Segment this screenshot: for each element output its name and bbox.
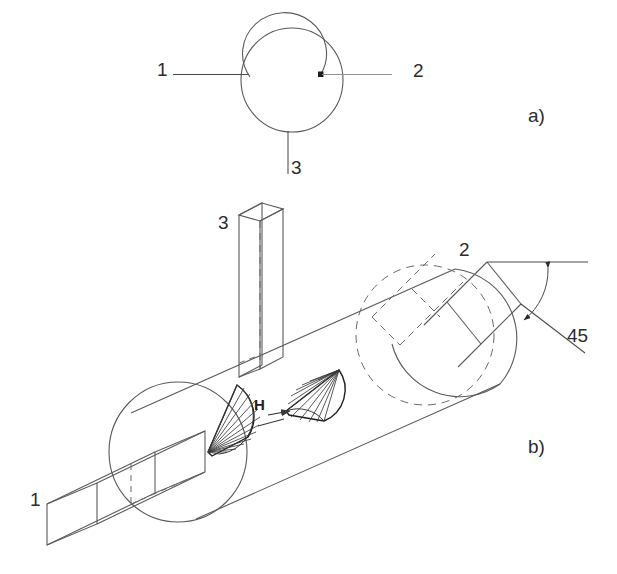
view-a-callout-3: 3: [291, 157, 302, 179]
tool-plate-hidden-bottom: [239, 355, 260, 363]
technical-figure: 1 2 3 a) 3 2 1 H 45 b): [0, 0, 617, 574]
tool-plate-side-face: [260, 209, 283, 369]
angle-45-label: 45: [567, 325, 588, 347]
tool-plate-front-face: [239, 203, 262, 377]
tool-plate-bottom-edge: [239, 369, 260, 377]
view-b-callout-3: 3: [218, 212, 229, 234]
view-a-callout-1: 1: [157, 59, 168, 81]
view-b-panel-label: b): [528, 436, 545, 458]
bar2-edge-bottom: [458, 304, 521, 367]
bar2-shoulder-edge: [447, 302, 481, 344]
bar1-top-near-edge: [47, 452, 155, 504]
dimension-h-leader: [258, 419, 284, 426]
bar1-top-far-edge: [97, 431, 205, 483]
cone-feature-left: [208, 385, 260, 456]
cone-right-radial-lines: [286, 370, 339, 422]
cylinder-top-edge: [131, 269, 455, 413]
cone-feature-right: [286, 370, 345, 422]
view-a-panel-label: a): [528, 105, 545, 127]
view-a-callout-2: 2: [413, 60, 424, 82]
dimension-h-label: H: [254, 396, 265, 413]
view-a-outer-circle: [241, 28, 343, 132]
cylinder-far-end-outline-lower: [392, 344, 500, 397]
view-b-callout-1: 1: [30, 489, 41, 511]
tool-plate-3: [239, 203, 283, 377]
view-b-group: [47, 203, 588, 545]
view-b-callout-2: 2: [459, 239, 470, 261]
view-a-group: [173, 13, 392, 174]
bar2-hidden-cross-a: [372, 317, 400, 345]
cylinder-far-end-outline: [455, 269, 517, 384]
bar1-bottom-near-edge: [47, 493, 155, 545]
angle-arc-45: [524, 268, 548, 320]
bar1-rectangular-stock: [47, 431, 205, 545]
bar2-hidden-edge-a: [400, 282, 463, 345]
cylinder-bottom-edge: [196, 384, 500, 519]
bar2-hidden-edge-b: [372, 254, 435, 317]
figure-canvas: [0, 0, 617, 574]
bar2-edge-top: [424, 262, 487, 325]
